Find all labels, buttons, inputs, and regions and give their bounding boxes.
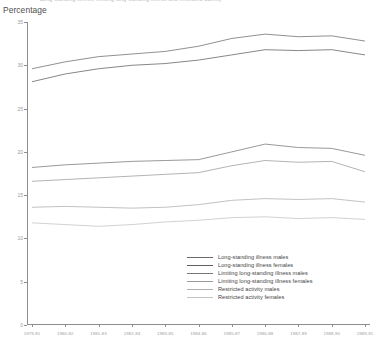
chart-container: Long-standing illness, limiting long-sta… [0,0,383,353]
x-tick-label: 1979-81 [24,331,40,336]
series-line [32,144,365,167]
y-tick-label: 5 [20,279,23,285]
chart-title: Long-standing illness, limiting long-sta… [40,0,360,3]
y-tick-label: 15 [17,192,23,198]
legend-item-label: Restricted activity females [218,293,284,301]
y-tick-label: 20 [17,149,23,155]
legend-item[interactable]: Restricted activity males [187,285,357,293]
legend-swatch-icon [187,265,213,266]
legend-item-label: Limiting long-standing illness females [218,277,313,285]
legend-swatch-icon [187,289,213,290]
x-tick-label: 1986-88 [257,331,273,336]
series-line [32,34,365,69]
legend-item-label: Long-standing illness males [218,253,288,261]
series-line [32,217,365,227]
series-line [32,199,365,209]
legend-swatch-icon [187,281,213,282]
legend-swatch-icon [187,257,213,258]
x-tick-label: 1985-87 [224,331,240,336]
legend-item[interactable]: Long-standing illness males [187,253,357,261]
x-tick-label: 1989-91 [357,331,373,336]
legend-item[interactable]: Limiting long-standing illness males [187,269,357,277]
legend-swatch-icon [187,297,213,298]
chart-legend: Long-standing illness malesLong-standing… [187,253,357,302]
x-tick-label: 1980-82 [57,331,73,336]
y-tick [24,325,27,326]
series-line [32,50,365,82]
y-tick-label: 0 [20,322,23,328]
legend-item-label: Long-standing illness females [218,261,293,269]
legend-item-label: Restricted activity males [218,285,280,293]
x-tick-label: 1987-89 [290,331,306,336]
legend-item[interactable]: Limiting long-standing illness females [187,277,357,285]
y-tick-label: 25 [17,106,23,112]
x-tick-label: 1982-84 [124,331,140,336]
legend-item[interactable]: Restricted activity females [187,293,357,301]
x-tick-label: 1988-90 [323,331,339,336]
y-tick-label: 35 [17,19,23,25]
legend-item[interactable]: Long-standing illness females [187,261,357,269]
y-axis-caption: Percentage [3,5,47,15]
legend-swatch-icon [187,273,213,274]
y-tick-label: 30 [17,62,23,68]
x-tick-label: 1984-86 [190,331,206,336]
y-tick-label: 10 [17,235,23,241]
legend-item-label: Limiting long-standing illness males [218,269,308,277]
x-tick-label: 1981-83 [90,331,106,336]
x-tick-label: 1983-85 [157,331,173,336]
